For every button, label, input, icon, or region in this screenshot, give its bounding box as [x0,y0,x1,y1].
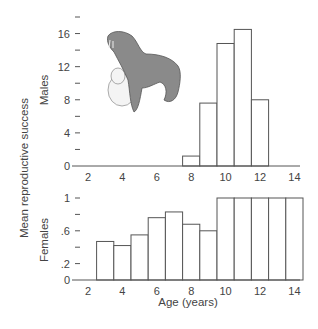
bar-age-12 [251,198,268,280]
y-tick-label: .2 [61,258,70,270]
x-tick-label: 14 [288,285,300,297]
y-tick-label: 8 [64,94,70,106]
x-tick-label: 8 [188,171,194,183]
males-panel: Males 0481216 2468101214 [38,17,301,183]
males-bars [183,29,269,166]
x-axis-label: Age (years) [158,296,218,308]
males-label: Males [38,74,50,105]
bar-age-5 [131,235,148,280]
females-y-axis: 0.2.61 [61,192,80,286]
males-y-axis: 0481216 [58,17,80,172]
bar-age-8 [183,224,200,280]
bar-age-9 [200,103,217,166]
y-tick-label: 12 [58,61,70,73]
y-tick-label: .6 [61,225,70,237]
y-tick-label: 1 [64,192,70,204]
x-tick-label: 6 [154,171,160,183]
bar-age-3 [97,241,114,280]
y-tick-label: 4 [64,127,70,139]
x-tick-label: 14 [288,171,300,183]
y-tick-label: 0 [64,274,70,286]
y-tick-label: 16 [58,28,70,40]
males-x-tick-labels: 2468101214 [85,171,301,183]
bar-age-6 [148,218,165,280]
x-tick-label: 2 [85,171,91,183]
x-tick-label: 4 [119,285,125,297]
bar-age-9 [200,231,217,280]
females-panel: Females 0.2.61 2468101214 Age (years) [38,192,303,308]
bar-age-12 [251,100,268,166]
x-tick-label: 10 [219,171,231,183]
y-axis-label: Mean reproductive success [18,98,30,238]
bar-age-11 [234,198,251,280]
x-tick-label: 12 [254,285,266,297]
bar-age-10 [217,43,234,166]
reproductive-success-chart: Mean reproductive success Males 0481216 … [0,0,318,329]
seal-illustration [107,32,180,113]
females-label: Females [38,218,50,262]
bar-age-4 [114,246,131,280]
x-tick-label: 12 [254,171,266,183]
bar-age-14 [286,198,303,280]
x-tick-label: 2 [85,285,91,297]
females-bars [97,198,303,280]
x-tick-label: 10 [219,285,231,297]
y-tick-label: 0 [64,160,70,172]
bar-age-11 [234,29,251,166]
bar-age-8 [183,156,200,166]
x-tick-label: 4 [119,171,125,183]
bar-age-13 [269,198,286,280]
bar-age-10 [217,198,234,280]
bar-age-7 [165,212,182,280]
